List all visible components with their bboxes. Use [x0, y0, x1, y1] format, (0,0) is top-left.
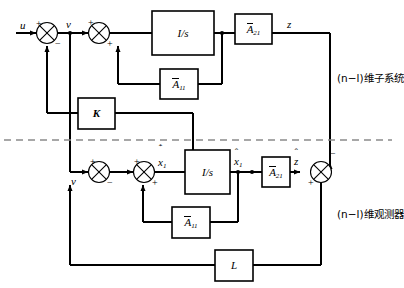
z-hat-base: z [294, 155, 298, 167]
label-integrator-bottom: I/s [185, 150, 230, 194]
node-x1-top [220, 31, 224, 35]
label-a11-bottom: A11 [172, 207, 210, 238]
a21-top-sub: 21 [253, 29, 260, 37]
label-signal-x1-hat: ̂x1 [234, 156, 242, 167]
label-signal-z-hat: ̂z [294, 156, 298, 167]
label-sum5-plus: + [308, 178, 314, 188]
label-sum3-plus: + [90, 157, 96, 167]
annotation-observer: (n−l)维观测器 [337, 209, 404, 220]
node-xhat-bottom [236, 170, 240, 174]
label-sum2-plus-bottom: + [107, 39, 113, 49]
label-a21-top: A21 [235, 14, 272, 44]
a11-top-sub: 11 [179, 84, 185, 92]
a21-bottom-sub: 21 [276, 172, 283, 180]
a11-bottom-sub: 11 [191, 222, 197, 230]
label-gain-l: L [215, 250, 253, 281]
label-sum4-plus-bottom: + [152, 178, 158, 188]
label-sum2-plus-top: + [88, 18, 94, 28]
label-sum1-minus: − [55, 39, 61, 49]
node-v-top [68, 31, 72, 35]
label-a21-bottom: A21 [262, 157, 290, 187]
a21-bottom-base: A [269, 166, 276, 179]
label-sum3-minus: − [107, 178, 113, 188]
label-signal-x1-dot: ̇̂x1 [158, 157, 166, 168]
label-signal-u: u [20, 20, 26, 31]
x1-hat-sub: 1 [239, 161, 243, 169]
label-gain-k: K [78, 98, 115, 129]
label-a11-top: A11 [160, 69, 198, 99]
annotation-subsystem: (n−l)维子系统 [337, 73, 404, 84]
label-signal-z: z [287, 19, 291, 30]
label-integrator-top: I/s [152, 11, 214, 55]
label-sum5-minus: − [330, 149, 336, 159]
label-signal-v-bottom: v [71, 176, 76, 187]
label-sum1-plus: + [36, 19, 42, 29]
label-signal-v-top: v [66, 19, 71, 30]
node-xhat-branch [250, 170, 254, 174]
x1-dot-sub: 1 [163, 162, 167, 170]
label-sum4-plus-top: + [134, 157, 140, 167]
